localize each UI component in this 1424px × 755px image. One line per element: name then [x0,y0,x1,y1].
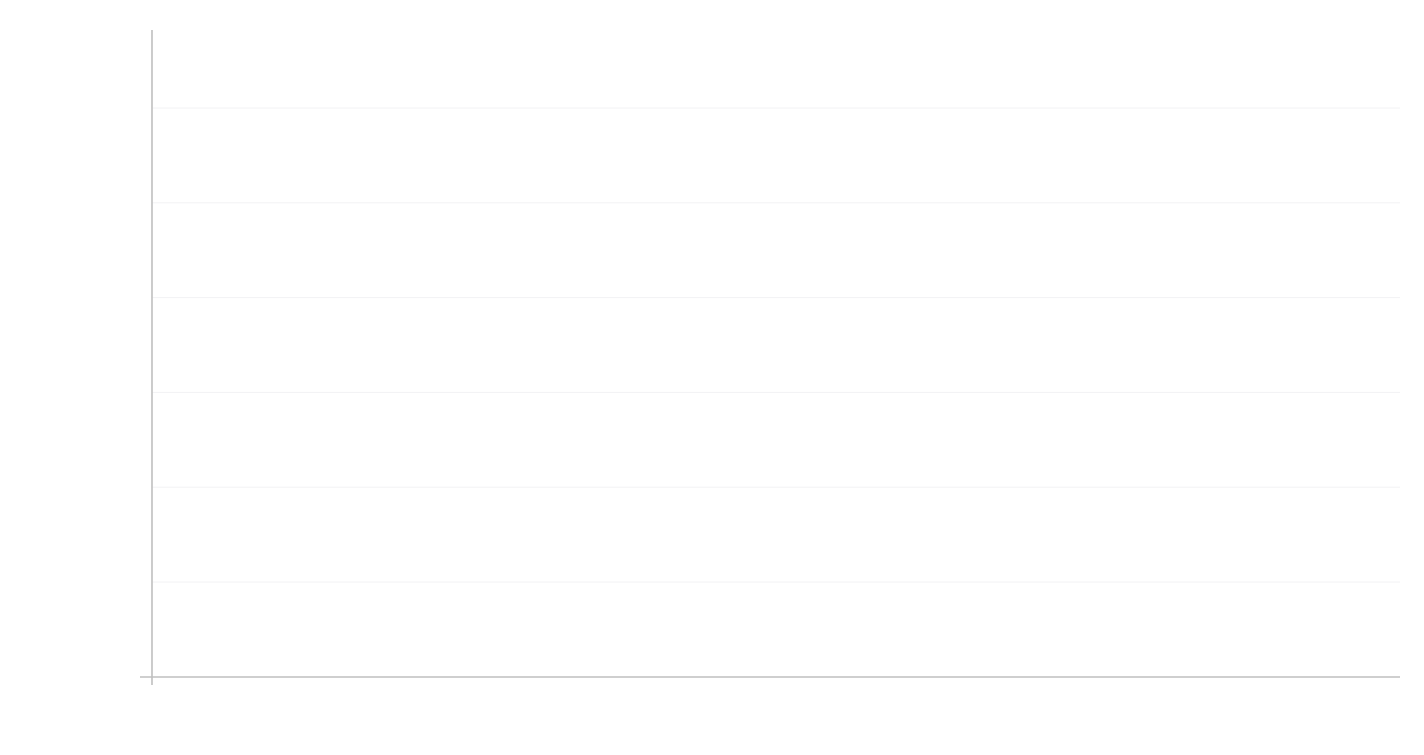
gridlines [152,108,1400,582]
y-axis-tick-labels [25,0,137,755]
axis-lines [140,30,1400,685]
chart-container [0,0,1424,755]
x-axis-tick-labels [0,698,1424,738]
chart-plot-area [0,0,1424,755]
